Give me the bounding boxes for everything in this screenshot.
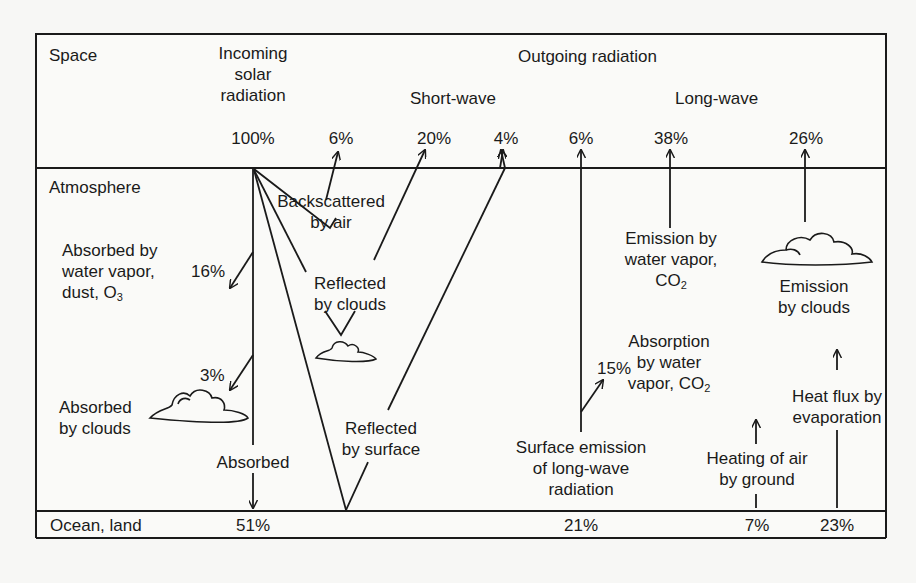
label-heat-flux: Heat flux by evaporation bbox=[792, 386, 882, 428]
value-absorbed-vapor: 16% bbox=[191, 261, 225, 282]
value-absorption-vapor: 15% bbox=[597, 358, 631, 379]
label-backscattered: Backscattered by air bbox=[277, 191, 385, 233]
value-reflected-surface: 4% bbox=[494, 128, 519, 149]
value-absorbed-clouds: 3% bbox=[200, 365, 225, 386]
short-wave-heading: Short-wave bbox=[410, 88, 496, 109]
label-emission-clouds: Emission by clouds bbox=[778, 276, 850, 318]
label-absorbed-clouds: Absorbed by clouds bbox=[59, 397, 132, 439]
layer-label-surface: Ocean, land bbox=[50, 515, 142, 536]
radiation-balance-diagram: Space Atmosphere Ocean, land Incoming so… bbox=[0, 0, 916, 583]
value-heat-flux: 23% bbox=[820, 515, 854, 536]
value-emission-clouds: 26% bbox=[789, 128, 823, 149]
value-reflected-clouds: 20% bbox=[417, 128, 451, 149]
layer-label-atmosphere: Atmosphere bbox=[49, 177, 141, 198]
label-surface-emission: Surface emission of long-wave radiation bbox=[516, 437, 646, 500]
value-surface-emission-escape: 6% bbox=[569, 128, 594, 149]
label-absorbed: Absorbed bbox=[217, 452, 290, 473]
long-wave-heading: Long-wave bbox=[675, 88, 758, 109]
value-surface-emission: 21% bbox=[564, 515, 598, 536]
value-incoming: 100% bbox=[231, 128, 274, 149]
outgoing-heading: Outgoing radiation bbox=[518, 46, 657, 67]
label-reflected-clouds: Reflected by clouds bbox=[314, 273, 386, 315]
label-heating-air: Heating of air by ground bbox=[706, 448, 807, 490]
label-reflected-surface: Reflected by surface bbox=[342, 418, 420, 460]
value-emission-water-vapor: 38% bbox=[654, 128, 688, 149]
incoming-heading: Incoming solar radiation bbox=[219, 43, 288, 106]
value-backscattered: 6% bbox=[329, 128, 354, 149]
value-surface-absorbed: 51% bbox=[236, 515, 270, 536]
label-absorbed-vapor: Absorbed by water vapor, dust, O3 bbox=[62, 240, 157, 303]
layer-label-space: Space bbox=[49, 45, 97, 66]
label-absorption-vapor: Absorption by water vapor, CO2 bbox=[628, 331, 711, 394]
label-emission-vapor: Emission by water vapor, CO2 bbox=[625, 228, 718, 291]
value-heating-air: 7% bbox=[745, 515, 770, 536]
